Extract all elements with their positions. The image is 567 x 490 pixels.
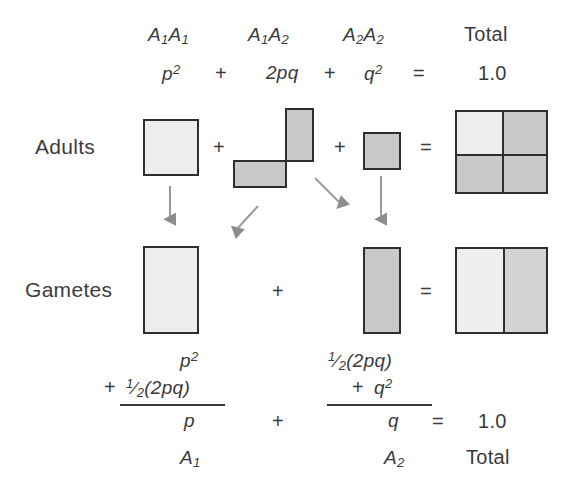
bottom-left-allele-label: A1 (180, 447, 201, 470)
total-gametes-half-p (457, 249, 503, 332)
bottom-right-numerator-plus: + (352, 376, 364, 399)
bottom-right-numerator-half-2pq: 1⁄2(2pq) (328, 349, 392, 373)
bottom-left-fraction-rule (120, 404, 225, 406)
diagram-canvas: A1A1 A1A2 A2A2 Total p2 + 2pq + q2 = 1.0… (0, 0, 567, 490)
bottom-left-allele-base: A (180, 447, 193, 468)
bottom-left-half-rest: (2pq) (144, 377, 190, 398)
bottom-total-value: 1.0 (478, 410, 507, 433)
total-gametes-vertical-divider (503, 249, 505, 332)
bottom-middle-plus: + (272, 410, 284, 433)
bottom-right-num-q-exponent: 2 (385, 376, 393, 391)
bottom-right-half-rest: (2pq) (346, 350, 392, 371)
bottom-left-numerator-plus: + (104, 376, 116, 399)
arrow-A1A2-to-p (236, 206, 258, 230)
bottom-right-allele-label: A2 (384, 447, 405, 470)
bottom-left-num-p-base: p (180, 350, 191, 371)
q-gamete-rect (363, 247, 401, 334)
bottom-right-fraction-rule (327, 404, 432, 406)
row-label-gametes: Gametes (25, 278, 112, 302)
bottom-left-allele-sub: 1 (193, 455, 201, 470)
total-gametes-box (455, 247, 548, 334)
bottom-right-denominator: q (388, 410, 399, 432)
bottom-right-num-q-base: q (374, 377, 385, 398)
p-gamete-rect (143, 246, 199, 334)
bottom-left-denominator: p (184, 410, 195, 432)
bottom-left-numerator-p-squared: p2 (180, 349, 198, 372)
bottom-equals: = (432, 410, 444, 433)
bottom-right-allele-base: A (384, 447, 397, 468)
bottom-right-numerator-q-squared: q2 (374, 376, 392, 399)
bottom-left-half-numerator: 1 (126, 376, 134, 391)
bottom-right-allele-sub: 2 (397, 455, 405, 470)
gametes-equals: = (420, 280, 432, 303)
arrow-A1A2-to-q (315, 178, 341, 204)
bottom-left-num-p-exponent: 2 (191, 349, 199, 364)
bottom-total-label: Total (466, 446, 510, 469)
bottom-right-half-numerator: 1 (328, 349, 336, 364)
gametes-plus-1: + (272, 280, 284, 303)
bottom-left-numerator-half-2pq: 1⁄2(2pq) (126, 376, 190, 400)
